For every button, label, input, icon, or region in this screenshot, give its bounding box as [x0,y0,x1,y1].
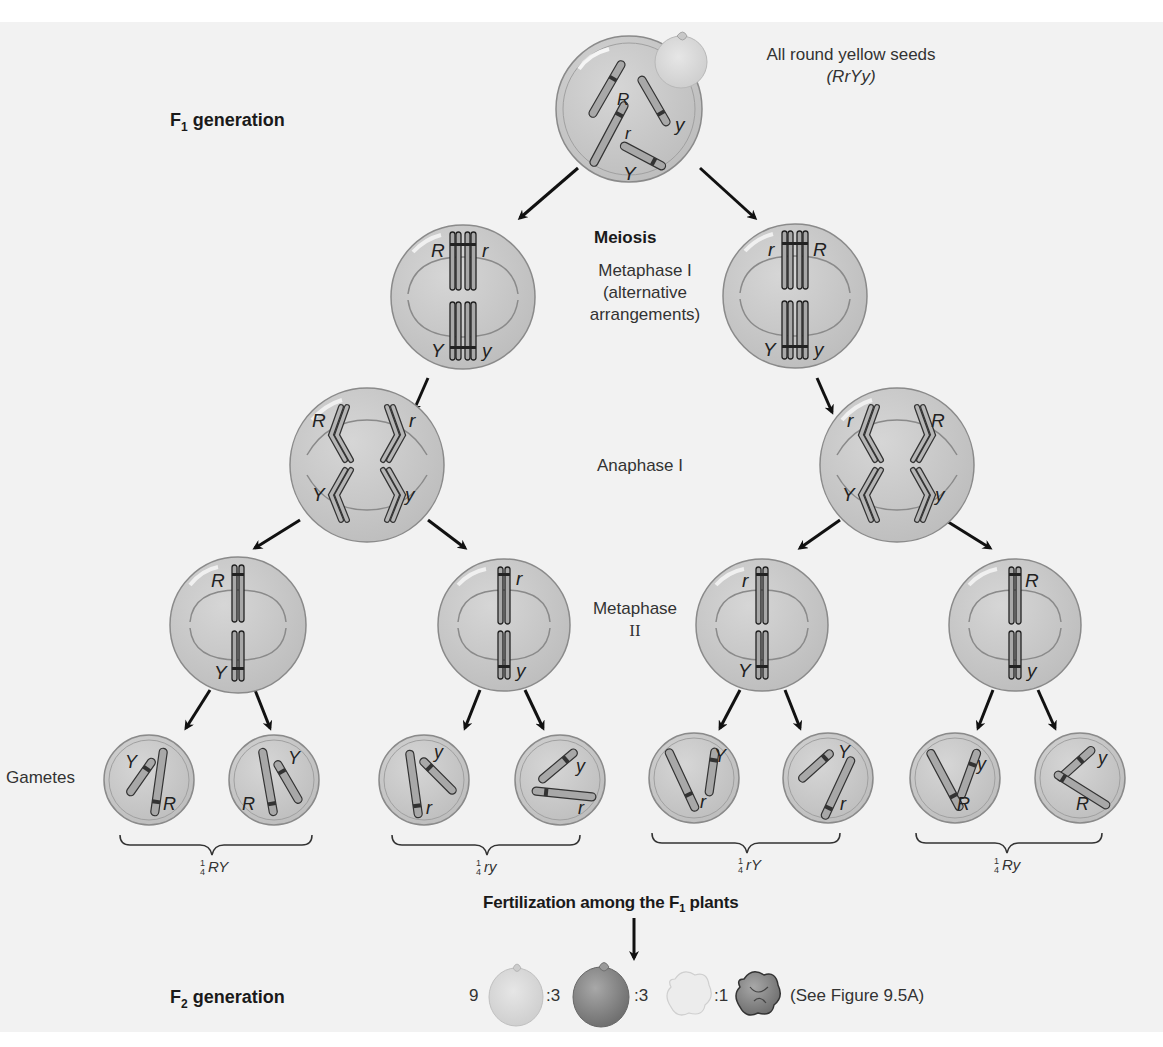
svg-text:y: y [812,339,825,360]
gamete-fraction-ry: 14ry [476,858,497,877]
gamete-5: Yr [649,733,739,823]
svg-text:r: r [578,798,585,818]
parent-caption: All round yellow seeds (RrYy) [726,44,976,88]
svg-text:R: R [617,90,629,109]
svg-text:Y: Y [714,746,728,766]
svg-text:r: r [768,239,775,260]
gamete-braces [120,833,1102,855]
svg-text:r: r [840,794,847,814]
metaphase1-cell-right: r R Y y [723,224,867,368]
ratio-3-wrinkled-yellow: :3 [634,986,648,1006]
fertilization-label: Fertilization among the F1 plants [483,893,738,914]
metaphase1-cell-left: R r Y y [391,225,535,369]
svg-text:y: y [933,484,946,505]
svg-text:Y: Y [763,339,777,360]
svg-text:R: R [163,794,176,814]
svg-text:r: r [847,410,854,431]
svg-text:r: r [426,798,433,818]
wrinkled-yellow-seed-icon [667,972,711,1015]
svg-text:R: R [957,794,970,814]
ratio-1: :1 [714,986,728,1006]
wrinkled-green-seed-icon [736,972,780,1015]
meiosis-diagram: R r y Y R r Y y [0,0,1163,1047]
svg-text:r: r [700,792,707,812]
f2-generation-label: F2 generation [170,987,285,1011]
svg-text:Y: Y [214,662,228,683]
gamete-2: YR [229,735,319,825]
anaphase1-cell-left: R r Y y [290,388,444,542]
svg-text:y: y [432,742,444,762]
see-figure-reference: (See Figure 9.5A) [790,986,924,1006]
gametes-row: YR YR yr yr Yr [104,733,1125,825]
round-yellow-seed-icon [489,964,543,1026]
round-yellow-seed-icon [655,32,707,88]
metaphase2-cell-4: R y [949,559,1081,691]
meiosis-label: Meiosis [594,228,656,248]
gamete-3: yr [379,735,469,825]
svg-text:r: r [516,568,523,589]
svg-text:R: R [1025,570,1039,591]
svg-text:r: r [409,410,416,431]
svg-text:R: R [312,410,326,431]
gamete-1: YR [104,735,194,825]
gamete-7: yR [910,733,1000,823]
metaphase1-label: Metaphase I (alternative arrangements) [555,260,735,326]
gamete-6: Yr [783,733,873,823]
svg-text:R: R [931,410,945,431]
ratio-9: 9 [469,986,478,1006]
svg-text:y: y [403,484,416,505]
svg-text:y: y [574,756,586,776]
svg-text:y: y [480,340,493,361]
gamete-8: yR [1035,733,1125,823]
gametes-label: Gametes [6,768,75,788]
gamete-fraction-rY: 14rY [738,856,761,875]
svg-text:R: R [242,794,255,814]
svg-text:y: y [975,754,987,774]
f1-generation-label: F1 generation [170,110,285,134]
gamete-fraction-Ry: 14Ry [994,856,1020,875]
gamete-fraction-RY: 14RY [200,858,228,877]
svg-text:Y: Y [125,752,139,772]
svg-text:Y: Y [312,484,326,505]
parent-phenotype: All round yellow seeds [726,44,976,66]
anaphase1-label: Anaphase I [580,455,700,477]
svg-text:y: y [514,660,527,681]
ratio-3-round-green: :3 [546,986,560,1006]
svg-text:Y: Y [623,163,637,184]
svg-text:Y: Y [431,340,445,361]
parent-genotype: (RrYy) [726,66,976,88]
svg-text:Y: Y [288,748,302,768]
svg-text:y: y [1025,660,1038,681]
svg-text:R: R [1076,794,1089,814]
svg-text:R: R [431,240,445,261]
svg-text:R: R [813,239,827,260]
svg-text:y: y [673,114,686,135]
svg-text:Y: Y [838,742,852,762]
metaphase2-cell-2: r y [438,559,570,691]
svg-text:r: r [742,570,749,591]
svg-text:R: R [211,570,225,591]
metaphase2-cell-1: R Y [170,557,306,693]
svg-text:Y: Y [738,660,752,681]
svg-text:Y: Y [842,484,856,505]
anaphase1-cell-right: r R Y y [820,388,974,542]
metaphase2-cell-3: r Y [696,559,828,691]
round-green-seed-icon [573,963,629,1028]
metaphase2-label: Metaphase II [580,598,690,642]
svg-text:y: y [1096,748,1108,768]
gamete-4: yr [515,735,605,825]
svg-text:r: r [482,240,489,261]
